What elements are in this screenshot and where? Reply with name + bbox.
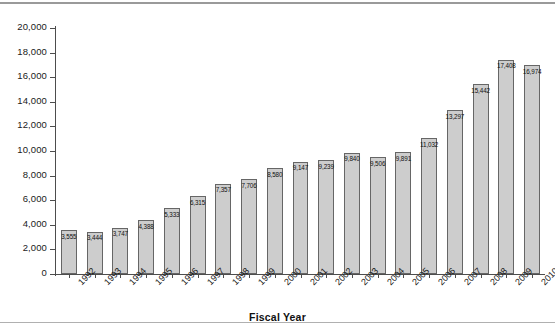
- bar-value-label: 17,408: [497, 62, 516, 69]
- x-axis-tick-label: 1992: [76, 280, 83, 287]
- bar: 6,315: [190, 196, 206, 274]
- x-axis-tick-mark: [275, 274, 276, 278]
- x-axis-tick-label: 2009: [513, 280, 520, 287]
- y-axis-tick-mark: [50, 176, 55, 177]
- bar-value-label: 7,706: [241, 182, 256, 189]
- x-axis-tick-label: 2008: [488, 280, 495, 287]
- x-axis-tick-mark: [455, 274, 456, 278]
- x-axis-tick-label: 1999: [256, 280, 263, 287]
- y-axis-tick-label: 14,000: [17, 95, 47, 106]
- bar: 9,840: [344, 153, 360, 274]
- bar: 9,147: [293, 162, 309, 275]
- x-axis-tick-label: 2001: [308, 280, 315, 287]
- y-axis-tick-label: 6,000: [23, 193, 47, 204]
- x-axis-tick-mark: [120, 274, 121, 278]
- x-axis-tick-label: 2006: [436, 280, 443, 287]
- y-axis-tick-label: 10,000: [17, 144, 47, 155]
- bar-value-label: 6,315: [190, 199, 205, 206]
- bar: 7,706: [241, 179, 257, 274]
- x-axis-tick-mark: [172, 274, 173, 278]
- bar-value-label: 13,297: [446, 113, 465, 120]
- x-axis-tick-label: 2002: [333, 280, 340, 287]
- bar: 15,442: [473, 84, 489, 274]
- y-axis-tick-label: 18,000: [17, 46, 47, 57]
- bar: 3,555: [61, 230, 77, 274]
- x-axis-tick-mark: [249, 274, 250, 278]
- bar: 8,580: [267, 168, 283, 274]
- x-axis-tick-label: 2010: [539, 280, 546, 287]
- bar-value-label: 9,147: [293, 164, 308, 171]
- bar-value-label: 4,388: [138, 223, 153, 230]
- y-axis-tick-mark: [50, 77, 55, 78]
- y-axis-tick-mark: [50, 151, 55, 152]
- bar-value-label: 9,840: [344, 155, 359, 162]
- x-axis-tick-mark: [429, 274, 430, 278]
- x-axis-tick-label: 1997: [205, 280, 212, 287]
- x-axis-tick-mark: [146, 274, 147, 278]
- x-axis-tick-mark: [301, 274, 302, 278]
- x-axis-tick-label: 1995: [153, 280, 160, 287]
- x-axis-tick-mark: [95, 274, 96, 278]
- bar: 11,032: [421, 138, 437, 274]
- x-axis-tick-mark: [69, 274, 70, 278]
- x-axis-tick-label: 1996: [179, 280, 186, 287]
- bar-value-label: 9,239: [319, 163, 334, 170]
- bar-value-label: 5,333: [164, 211, 179, 218]
- x-axis-tick-mark: [223, 274, 224, 278]
- y-axis-tick-mark: [50, 53, 55, 54]
- bar-value-label: 15,442: [471, 87, 490, 94]
- x-axis-tick-label: 1994: [127, 280, 134, 287]
- bar-value-label: 16,974: [523, 68, 542, 75]
- bar: 13,297: [447, 110, 463, 274]
- x-axis-tick-label: 2003: [359, 280, 366, 287]
- x-axis-tick-label: 2005: [410, 280, 417, 287]
- x-axis-tick-mark: [378, 274, 379, 278]
- bar: 9,239: [318, 160, 334, 274]
- y-axis-tick-label: 4,000: [23, 218, 47, 229]
- x-axis-tick-label: 1998: [230, 280, 237, 287]
- x-axis-tick-mark: [326, 274, 327, 278]
- x-axis-tick-mark: [532, 274, 533, 278]
- bar: 17,408: [498, 60, 514, 274]
- bar: 9,506: [370, 157, 386, 274]
- y-axis-tick-label: 8,000: [23, 169, 47, 180]
- plot-area: 3,5553,4443,7474,3885,3336,3157,3577,706…: [56, 28, 545, 274]
- x-axis-tick-mark: [352, 274, 353, 278]
- top-divider-rule: [0, 2, 555, 4]
- bar-value-label: 9,891: [396, 155, 411, 162]
- y-axis-tick-label: 16,000: [17, 70, 47, 81]
- bar: 7,357: [215, 184, 231, 274]
- x-axis-tick-label: 2000: [282, 280, 289, 287]
- y-axis-tick-mark: [50, 102, 55, 103]
- bar-value-label: 3,444: [87, 234, 102, 241]
- bar-value-label: 9,506: [370, 160, 385, 167]
- bar: 16,974: [524, 65, 540, 274]
- x-axis-tick-mark: [198, 274, 199, 278]
- bar-value-label: 3,555: [61, 233, 76, 240]
- bottom-divider-rule: [0, 322, 555, 323]
- bar-value-label: 8,580: [267, 171, 282, 178]
- bar: 5,333: [164, 208, 180, 274]
- y-axis-tick-label: 2,000: [23, 242, 47, 253]
- bar-value-label: 3,747: [113, 230, 128, 237]
- x-axis-tick-mark: [481, 274, 482, 278]
- x-axis-tick-mark: [403, 274, 404, 278]
- bar-value-label: 7,357: [216, 186, 231, 193]
- x-axis-tick-label: 1993: [102, 280, 109, 287]
- bar-value-label: 11,032: [420, 141, 438, 148]
- y-axis-tick-label: 20,000: [17, 21, 47, 32]
- bar-chart: 20,00018,00016,00014,00012,00010,0008,00…: [0, 8, 555, 320]
- y-axis-tick-mark: [50, 249, 55, 250]
- y-axis-tick-mark: [50, 28, 55, 29]
- x-axis-tick-label: 2007: [462, 280, 469, 287]
- y-axis-tick-mark: [50, 200, 55, 201]
- x-axis-tick-mark: [506, 274, 507, 278]
- y-axis-tick-mark: [50, 274, 55, 275]
- y-axis-tick-label: 12,000: [17, 119, 47, 130]
- y-axis-tick-mark: [50, 225, 55, 226]
- bar: 9,891: [395, 152, 411, 274]
- x-axis-tick-label: 2004: [385, 280, 392, 287]
- y-axis-tick-mark: [50, 126, 55, 127]
- y-axis-tick-label: 0: [42, 267, 47, 278]
